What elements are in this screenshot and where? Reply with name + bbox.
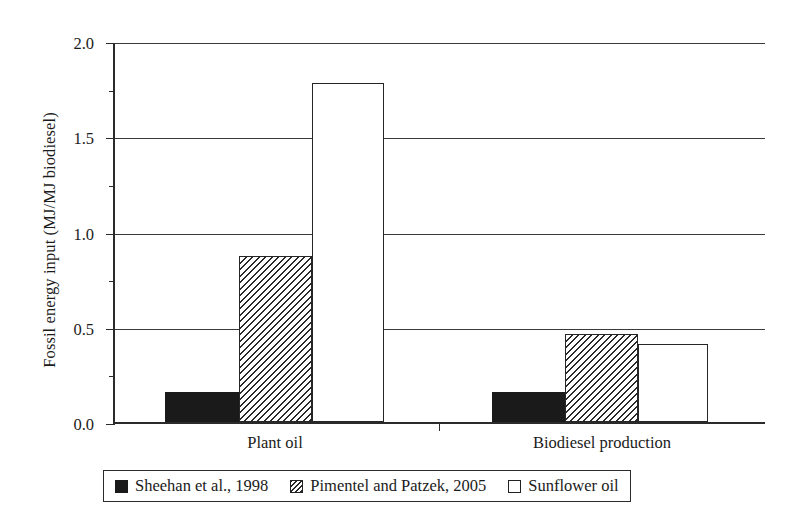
y-axis-title: Fossil energy input (MJ/MJ biodiesel) bbox=[40, 40, 60, 440]
bar-biodiesel-pimentel bbox=[565, 334, 638, 422]
legend-item-pimentel: Pimentel and Patzek, 2005 bbox=[290, 476, 486, 496]
legend-item-sunflower: Sunflower oil bbox=[508, 476, 618, 496]
legend-label-sunflower: Sunflower oil bbox=[528, 476, 618, 496]
gridline-1.0 bbox=[115, 234, 765, 235]
chart-figure: Fossil energy input (MJ/MJ biodiesel) 2.… bbox=[0, 0, 799, 525]
x-axis-category-separator bbox=[439, 422, 440, 431]
legend-label-sheehan: Sheehan et al., 1998 bbox=[135, 476, 268, 496]
solid-black-swatch-icon bbox=[115, 480, 128, 493]
y-tick-label-2.0: 2.0 bbox=[73, 34, 94, 54]
y-tick-label-0.5: 0.5 bbox=[73, 319, 94, 339]
bar-plant-oil-sunflower bbox=[312, 83, 384, 422]
y-minor-tick-1.75 bbox=[109, 91, 115, 92]
legend-label-pimentel: Pimentel and Patzek, 2005 bbox=[310, 476, 486, 496]
y-tick-0.5: 0.5 bbox=[106, 329, 115, 330]
bar-biodiesel-sunflower bbox=[638, 344, 708, 422]
gridline-1.5 bbox=[115, 138, 765, 139]
y-tick-0.0: 0.0 bbox=[106, 424, 115, 425]
y-tick-label-0.0: 0.0 bbox=[73, 415, 94, 435]
bar-biodiesel-sheehan bbox=[492, 392, 565, 423]
hatched-swatch-icon bbox=[290, 480, 303, 493]
chart-legend: Sheehan et al., 1998 Pimentel and Patzek… bbox=[103, 470, 631, 502]
y-tick-1.0: 1.0 bbox=[106, 234, 115, 235]
open-white-swatch-icon bbox=[508, 480, 521, 493]
gridline-2.0 bbox=[115, 43, 765, 44]
y-minor-tick-0.25 bbox=[109, 376, 115, 377]
y-tick-label-1.5: 1.5 bbox=[73, 129, 94, 149]
plot-area: 2.0 1.5 1.0 0.5 0.0 Plant oil Biodiese bbox=[113, 43, 765, 424]
y-tick-label-1.0: 1.0 bbox=[73, 224, 94, 244]
bar-plant-oil-sheehan bbox=[165, 392, 239, 423]
y-minor-tick-0.75 bbox=[109, 281, 115, 282]
bar-plant-oil-pimentel bbox=[239, 256, 312, 422]
x-axis-label-biodiesel-production: Biodiesel production bbox=[533, 433, 671, 453]
legend-item-sheehan: Sheehan et al., 1998 bbox=[115, 476, 268, 496]
gridline-0.5 bbox=[115, 329, 765, 330]
y-tick-1.5: 1.5 bbox=[106, 138, 115, 139]
y-tick-2.0: 2.0 bbox=[106, 43, 115, 44]
x-axis-label-plant-oil: Plant oil bbox=[247, 433, 302, 453]
y-minor-tick-1.25 bbox=[109, 186, 115, 187]
